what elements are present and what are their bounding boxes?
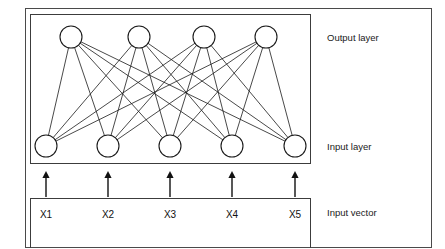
- input-node: [284, 135, 306, 157]
- connection-edges: [48, 42, 292, 141]
- figure-container: Output layer Input layer Input vector X1…: [0, 0, 445, 249]
- arrow-head: [228, 171, 235, 178]
- output-node: [193, 26, 215, 48]
- input-layer-nodes: [35, 135, 306, 157]
- connection-edge: [142, 48, 167, 136]
- input-node: [159, 135, 181, 157]
- arrow-head: [104, 171, 111, 178]
- connection-edge: [146, 45, 225, 137]
- connection-edge: [117, 43, 257, 140]
- input-node: [221, 135, 243, 157]
- output-node: [128, 26, 150, 48]
- input-arrows: [42, 171, 298, 197]
- input-vector-item-1: X1: [40, 210, 52, 220]
- connection-edge: [235, 48, 262, 136]
- connection-edge: [48, 48, 68, 136]
- output-layer-label: Output layer: [327, 33, 379, 43]
- connection-edge: [55, 43, 195, 140]
- input-vector-item-4: X4: [226, 210, 238, 220]
- output-layer-nodes: [60, 26, 277, 48]
- input-layer-label: Input layer: [327, 142, 371, 152]
- output-node: [60, 26, 82, 48]
- input-vector-item-2: X2: [102, 210, 114, 220]
- input-node: [35, 135, 57, 157]
- connection-edge: [148, 43, 286, 139]
- input-node: [97, 135, 119, 157]
- connection-edge: [81, 42, 285, 141]
- output-node: [255, 26, 277, 48]
- arrow-head: [291, 171, 298, 178]
- connection-edge: [177, 45, 258, 138]
- input-vector-label: Input vector: [327, 208, 377, 218]
- connection-edge: [111, 48, 136, 136]
- connection-edge: [75, 47, 105, 135]
- input-vector-item-3: X3: [164, 210, 176, 220]
- connection-edge: [269, 48, 292, 136]
- arrow-head: [166, 171, 173, 178]
- input-vector-item-5: X5: [289, 210, 301, 220]
- arrow-head: [42, 171, 49, 178]
